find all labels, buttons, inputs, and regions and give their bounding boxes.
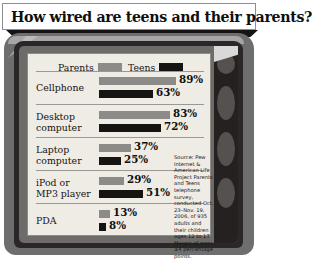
row-category-label: PDA <box>36 216 98 227</box>
bar-teens <box>99 190 143 198</box>
value-label-parents: 89% <box>179 73 203 85</box>
bar-parents <box>99 77 176 85</box>
value-label-teens: 51% <box>146 186 170 198</box>
page-title: How wired are teens and their parents? <box>11 9 255 25</box>
value-label-teens: 25% <box>124 153 148 165</box>
chart-legend: Parents Teens <box>28 57 212 72</box>
bar-teens <box>99 157 121 165</box>
legend-item-parents: Parents <box>58 57 122 70</box>
row-category-label: Cellphone <box>36 83 98 94</box>
value-label-teens: 63% <box>156 86 180 98</box>
value-label-teens: 72% <box>164 120 188 132</box>
legend-item-teens: Teens <box>128 57 183 70</box>
chart-row: Desktopcomputer83%72% <box>28 107 212 140</box>
value-label-teens: 8% <box>109 219 126 231</box>
legend-divider <box>36 71 204 72</box>
bar-parents <box>99 177 124 185</box>
row-divider <box>36 137 204 138</box>
headline-box: How wired are teens and their parents? <box>2 3 256 30</box>
bar-parents <box>99 111 170 119</box>
chart-panel: Parents Teens Cellphone89%63%Desktopcomp… <box>27 53 211 236</box>
value-label-parents: 83% <box>173 107 197 119</box>
bar-teens <box>99 124 161 132</box>
value-label-parents: 29% <box>127 173 151 185</box>
row-category-label: Laptopcomputer <box>36 145 98 166</box>
value-label-parents: 37% <box>134 140 158 152</box>
bar-parents <box>99 210 110 218</box>
bar-teens <box>99 223 106 231</box>
speaker-dot-icon <box>217 86 235 120</box>
bar-teens <box>99 90 153 98</box>
value-label-parents: 13% <box>113 206 137 218</box>
speaker-dot-icon <box>217 178 235 208</box>
speaker-dot-icon <box>217 132 235 166</box>
source-note: Source: Pew Internet & American Life Pro… <box>174 154 214 260</box>
row-category-label: Desktopcomputer <box>36 112 98 133</box>
device-speaker-column <box>214 46 238 243</box>
row-divider <box>36 104 204 105</box>
row-category-label: iPod orMP3 player <box>36 178 98 199</box>
chart-row: Cellphone89%63% <box>28 73 212 107</box>
bar-parents <box>99 144 131 152</box>
